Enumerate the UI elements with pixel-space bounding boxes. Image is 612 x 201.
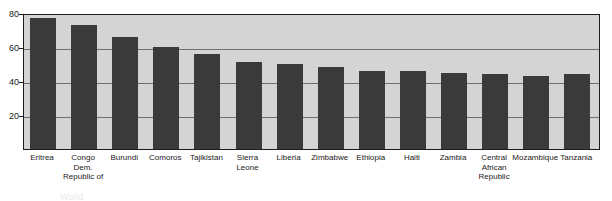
- y-tick-label-40: 40: [0, 78, 19, 87]
- x-label-line: Republic: [464, 172, 524, 182]
- x-label-line: African: [464, 163, 524, 173]
- bar-congo-dem-republic-of: [71, 15, 97, 149]
- figure-caption: World: [60, 193, 540, 201]
- bar-eritrea: [30, 15, 56, 149]
- bar-rect: [359, 71, 385, 149]
- x-axis-label-13: Tanzania: [546, 153, 606, 163]
- bar-haiti: [400, 15, 426, 149]
- x-label-line: Dem.: [53, 163, 113, 173]
- bar-chart-figure: 20406080 EritreaCongoDem.Republic ofBuru…: [0, 0, 612, 201]
- bar-rect: [318, 67, 344, 149]
- x-label-line: Tanzania: [546, 153, 606, 163]
- bar-rect: [236, 62, 262, 149]
- bar-rect: [523, 76, 549, 149]
- bar-rect: [112, 37, 138, 149]
- y-tick-label-80: 80: [0, 10, 19, 19]
- bar-rect: [277, 64, 303, 149]
- bar-tajikistan: [194, 15, 220, 149]
- bar-sierra-leone: [236, 15, 262, 149]
- bar-rect: [400, 71, 426, 149]
- y-tick-label-20: 20: [0, 112, 19, 121]
- bar-rect: [153, 47, 179, 149]
- y-tick-label-60: 60: [0, 44, 19, 53]
- bar-ethiopia: [359, 15, 385, 149]
- bar-tanzania: [564, 15, 590, 149]
- bar-liberia: [277, 15, 303, 149]
- bar-rect: [564, 74, 590, 149]
- bar-rect: [71, 25, 97, 149]
- bar-zimbabwe: [318, 15, 344, 149]
- plot-area: [23, 14, 600, 150]
- bar-rect: [441, 73, 467, 150]
- x-label-line: Republic of: [53, 172, 113, 182]
- bar-comoros: [153, 15, 179, 149]
- bar-burundi: [112, 15, 138, 149]
- bar-series: [24, 15, 599, 149]
- bar-zambia: [441, 15, 467, 149]
- bar-rect: [482, 74, 508, 149]
- bar-rect: [194, 54, 220, 149]
- bar-central-african-republic: [482, 15, 508, 149]
- bar-mozambique: [523, 15, 549, 149]
- bar-rect: [30, 18, 56, 149]
- x-label-line: Leone: [218, 163, 278, 173]
